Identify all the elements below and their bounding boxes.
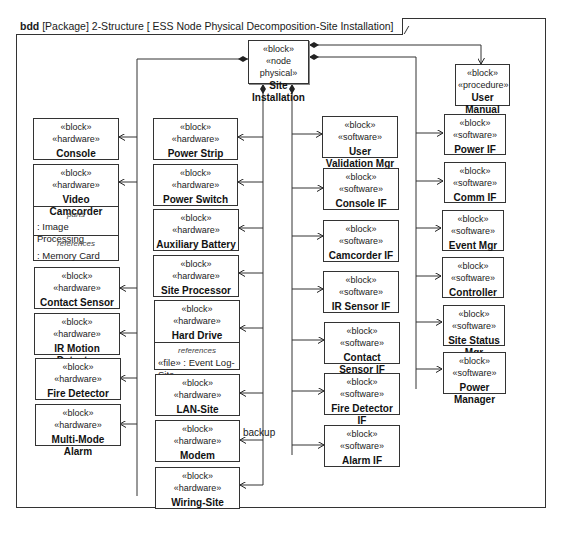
stereotype: «hardware»	[38, 419, 118, 431]
block-event-mgr[interactable]: «block»«software»Event Mgr	[442, 210, 504, 251]
block-name: Power Switch	[156, 194, 235, 206]
block-controller[interactable]: «block»«software»Controller	[442, 257, 504, 298]
stereotype: «software»	[447, 177, 503, 189]
stereotype: «block»	[251, 43, 306, 55]
block-name: Alarm IF	[327, 455, 397, 467]
block-power-switch[interactable]: «block»«hardware»Power Switch	[153, 164, 238, 206]
block-contact-sensor[interactable]: «block»«hardware»Contact Sensor	[34, 267, 120, 309]
stereotype: «block»	[327, 428, 397, 440]
stereotype: «block»	[326, 171, 396, 183]
block-name: Modem	[158, 450, 237, 462]
stereotype: «block»	[326, 223, 396, 235]
stereotype: «software»	[445, 272, 501, 284]
block-console[interactable]: «block»«hardware»Console	[33, 118, 119, 160]
stereotype: «hardware»	[37, 282, 117, 294]
stereotype: «block»	[327, 376, 397, 388]
block-name: Power Strip	[156, 148, 235, 160]
stereotype: «block»	[156, 212, 236, 224]
block-name: User Manual	[458, 92, 507, 116]
block-hard-drive[interactable]: «block»«hardware»Hard Drive references«f…	[154, 300, 240, 370]
block-name: Contact Sensor	[37, 297, 117, 309]
compartment-title: references	[158, 345, 236, 357]
block-name: Console	[36, 148, 116, 160]
backup-label: backup	[243, 427, 275, 438]
block-site-installation[interactable]: «block» «node physical» Site Installatio…	[248, 40, 309, 84]
block-name: Site Installation	[251, 80, 306, 104]
stereotype: «hardware»	[37, 328, 117, 340]
stereotype: «node physical»	[251, 55, 306, 79]
block-name: Power IF	[447, 144, 503, 156]
block-modem[interactable]: «block»«hardware»Modem	[155, 420, 240, 462]
block-console-if[interactable]: «block»«software»Console IF	[323, 168, 399, 210]
stereotype: «procedure»	[458, 79, 507, 91]
stereotype: «block»	[36, 167, 116, 179]
stereotype: «hardware»	[158, 482, 237, 494]
stereotype: «hardware»	[156, 179, 235, 191]
block-name: User Validation Mgr	[325, 146, 395, 170]
block-wiring-site[interactable]: «block»«hardware»Wiring-Site	[155, 467, 240, 509]
stereotype: «block»	[446, 355, 503, 367]
stereotype: «block»	[326, 274, 396, 286]
stereotype: «block»	[156, 121, 235, 133]
stereotype: «hardware»	[156, 270, 236, 282]
block-name: Fire Detector	[38, 388, 118, 400]
stereotype: «block»	[327, 325, 397, 337]
block-user-validation-mgr[interactable]: «block»«software»User Validation Mgr	[322, 116, 398, 158]
stereotype: «block»	[447, 117, 503, 129]
block-fire-detector[interactable]: «block»«hardware»Fire Detector	[35, 358, 121, 400]
stereotype: «software»	[447, 129, 503, 141]
stereotype: «block»	[38, 361, 118, 373]
block-alarm-if[interactable]: «block»«software»Alarm IF	[324, 425, 400, 467]
block-video-camcorder[interactable]: «block»«hardware»Video Camcorder parts: …	[33, 164, 119, 261]
block-power-manager[interactable]: «block»«software»Power Manager	[443, 352, 506, 394]
stereotype: «software»	[327, 388, 397, 400]
stereotype: «software»	[446, 320, 502, 332]
block-name: Camcorder IF	[326, 250, 396, 262]
diagram-kind: bdd	[20, 20, 39, 32]
block-name: Wiring-Site	[158, 497, 237, 509]
stereotype: «block»	[157, 303, 237, 315]
block-name: LAN-Site	[158, 404, 237, 416]
stereotype: «block»	[458, 67, 507, 79]
stereotype: «hardware»	[36, 133, 116, 145]
block-name: Console IF	[326, 198, 396, 210]
block-fire-detector-if[interactable]: «block»«software»Fire Detector IF	[324, 373, 400, 415]
block-power-if[interactable]: «block»«software»Power IF	[444, 114, 506, 155]
block-multi-mode-alarm[interactable]: «block»«hardware»Multi-Mode Alarm	[35, 404, 121, 446]
stereotype: «block»	[158, 423, 237, 435]
block-name: Comm IF	[447, 192, 503, 204]
block-lan-site[interactable]: «block»«hardware»LAN-Site	[155, 374, 240, 416]
block-power-strip[interactable]: «block»«hardware»Power Strip	[153, 118, 238, 160]
block-ir-sensor-if[interactable]: «block»«software»IR Sensor IF	[323, 271, 399, 313]
stereotype: «block»	[445, 213, 501, 225]
stereotype: «software»	[326, 183, 396, 195]
compartment-title: parts	[37, 209, 115, 221]
frame-title: bdd [Package] 2-Structure [ ESS Node Phy…	[16, 18, 403, 35]
stereotype: «software»	[326, 286, 396, 298]
block-name: Hard Drive	[157, 330, 237, 342]
stereotype: «block»	[37, 270, 117, 282]
block-site-processor[interactable]: «block»«hardware»Site Processor	[153, 255, 239, 297]
stereotype: «software»	[327, 337, 397, 349]
stereotype: «hardware»	[158, 435, 237, 447]
block-contact-sensor-if[interactable]: «block»«software»Contact Sensor IF	[324, 322, 400, 364]
stereotype: «block»	[36, 121, 116, 133]
block-user-manual[interactable]: «block» «procedure» User Manual	[455, 64, 510, 106]
stereotype: «block»	[445, 260, 501, 272]
block-name: Event Mgr	[445, 240, 501, 252]
stereotype: «software»	[325, 131, 395, 143]
stereotype: «software»	[326, 235, 396, 247]
block-camcorder-if[interactable]: «block»«software»Camcorder IF	[323, 220, 399, 262]
block-site-status-mgr[interactable]: «block»«software»Site Status Mgr	[443, 305, 505, 346]
stereotype: «hardware»	[156, 224, 236, 236]
block-name: Multi-Mode Alarm	[38, 434, 118, 458]
stereotype: «block»	[158, 377, 237, 389]
block-ir-motion-detector[interactable]: «block»«hardware»IR Motion Detector	[34, 313, 120, 355]
block-auxiliary-battery[interactable]: «block»«hardware»Auxiliary Battery	[153, 209, 239, 251]
stereotype: «block»	[156, 167, 235, 179]
stereotype: «block»	[37, 316, 117, 328]
stereotype: «block»	[446, 308, 502, 320]
block-name: Power Manager	[446, 382, 503, 406]
stereotype: «hardware»	[156, 133, 235, 145]
block-comm-if[interactable]: «block»«software»Comm IF	[444, 162, 506, 203]
